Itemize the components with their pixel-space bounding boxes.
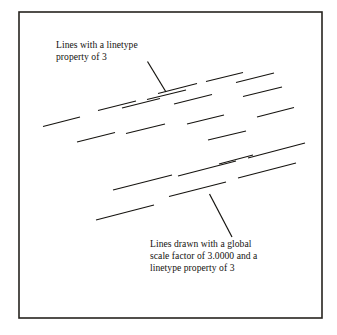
lower-callout-line-3: linetype property of 3 — [150, 262, 257, 274]
figure-canvas — [0, 0, 337, 335]
lower-callout-text: Lines drawn with a global scale factor o… — [150, 238, 257, 274]
lower-callout-line-1: Lines drawn with a global — [150, 238, 257, 250]
linetype-scale-figure: Lines with a linetype property of 3 Line… — [0, 0, 337, 335]
upper-callout-line-2: property of 3 — [56, 51, 138, 63]
upper-callout-text: Lines with a linetype property of 3 — [56, 39, 138, 63]
upper-callout-line-1: Lines with a linetype — [56, 39, 138, 51]
lower-callout-line-2: scale factor of 3.0000 and a — [150, 250, 257, 262]
